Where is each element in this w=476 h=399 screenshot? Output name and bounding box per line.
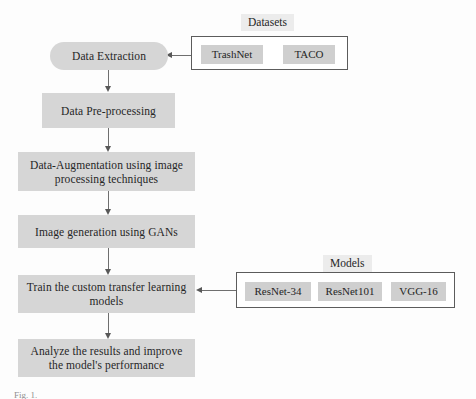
flow-node-train-models[interactable]: Train the custom transfer learning model…	[18, 275, 195, 313]
model-chip-vgg-16[interactable]: VGG-16	[391, 282, 446, 301]
flow-node-image-generation[interactable]: Image generation using GANs	[18, 215, 195, 248]
model-chip-resnet101[interactable]: ResNet101	[318, 282, 382, 301]
flow-node-data-augmentation[interactable]: Data-Augmentation using image processing…	[18, 152, 195, 191]
figure-caption: Fig. 1.	[14, 390, 37, 399]
edge-preprocessing-to-augmentation-line	[108, 128, 109, 147]
edge-models-to-train-models-arrowhead	[196, 287, 202, 293]
dataset-chip-taco[interactable]: TACO	[283, 45, 335, 64]
flow-node-data-extraction[interactable]: Data Extraction	[50, 42, 168, 70]
edge-extraction-to-preprocessing-arrowhead	[105, 86, 111, 92]
flowchart-diagram: Datasets TrashNet TACO Data Extraction D…	[0, 0, 476, 399]
group-title-datasets: Datasets	[241, 14, 294, 31]
edge-training-to-analysis-line	[108, 313, 109, 334]
flow-node-data-preprocessing[interactable]: Data Pre-processing	[42, 93, 175, 128]
dataset-chip-trashnet[interactable]: TrashNet	[201, 45, 263, 64]
edge-datasets-to-data-extraction-line	[172, 55, 191, 56]
model-chip-resnet-34[interactable]: ResNet-34	[245, 282, 311, 301]
group-title-models: Models	[323, 255, 372, 272]
edge-extraction-to-preprocessing-line	[108, 70, 109, 87]
edge-generation-to-training-line	[108, 248, 109, 270]
edge-augmentation-to-generation-line	[108, 191, 109, 210]
edge-models-to-train-models-line	[202, 290, 236, 291]
flow-node-analyze-results[interactable]: Analyze the results and improve the mode…	[18, 339, 195, 377]
